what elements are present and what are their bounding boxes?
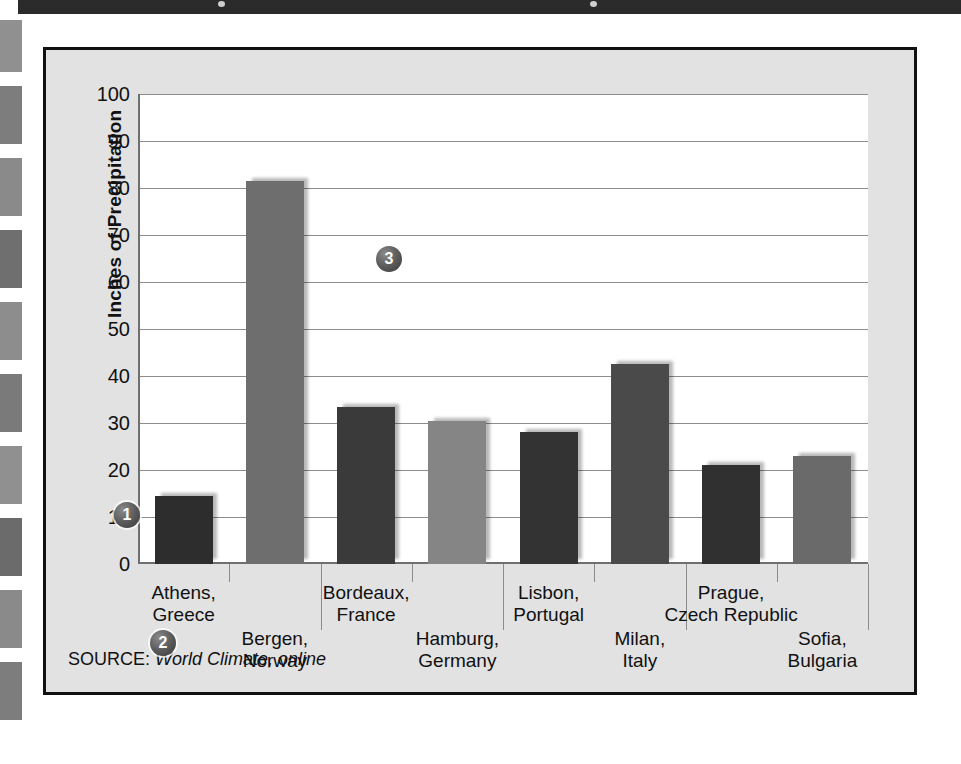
x-label-line2: Bulgaria	[788, 650, 858, 672]
x-label-line1: Milan,	[615, 628, 666, 650]
page-edge-band	[0, 518, 22, 576]
x-label-line1: Athens,	[151, 582, 215, 604]
page-edge-band	[0, 590, 22, 648]
gridline	[140, 94, 868, 95]
page-edge-band	[0, 302, 22, 360]
gridline	[140, 517, 868, 518]
plot-area	[138, 94, 868, 564]
gridline	[140, 470, 868, 471]
x-tick-mark	[412, 564, 413, 582]
gridline	[140, 329, 868, 330]
y-tick-label: 100	[97, 83, 130, 106]
y-tick-label: 30	[108, 412, 130, 435]
x-label-sofia: Sofia,Bulgaria	[788, 628, 858, 672]
y-tick-label: 20	[108, 459, 130, 482]
x-label-hamburg: Hamburg,Germany	[416, 628, 499, 672]
page-edge-band	[0, 662, 22, 720]
y-tick-label: 70	[108, 224, 130, 247]
source-label: SOURCE:	[68, 649, 150, 669]
source-note: SOURCE: World Climate, online	[68, 649, 326, 670]
page-root: Inches of Precipitation 1009080706050403…	[0, 0, 961, 764]
gridline	[140, 282, 868, 283]
y-tick-label: 0	[119, 553, 130, 576]
x-tick-mark	[868, 564, 869, 630]
gridline	[140, 141, 868, 142]
x-label-milan: Milan,Italy	[615, 628, 666, 672]
source-value: World Climate, online	[155, 649, 326, 669]
x-label-line2: Italy	[615, 650, 666, 672]
x-tick-mark	[321, 564, 322, 630]
figure-panel: Inches of Precipitation 1009080706050403…	[43, 47, 917, 695]
badge-1: 1	[114, 502, 140, 528]
x-label-prague: Prague,Czech Republic	[665, 582, 798, 626]
x-label-line1: Lisbon,	[513, 582, 584, 604]
page-edge-band	[0, 446, 22, 504]
x-tick-mark	[594, 564, 595, 582]
page-edge-band	[0, 230, 22, 288]
gridline	[140, 235, 868, 236]
x-label-bordeaux: Bordeaux,France	[323, 582, 410, 626]
top-banner	[18, 0, 961, 14]
y-tick-label: 60	[108, 271, 130, 294]
page-edge-band	[0, 20, 22, 72]
x-label-line1: Prague,	[665, 582, 798, 604]
x-label-athens: Athens,Greece	[151, 582, 215, 626]
gridline	[140, 188, 868, 189]
y-tick-label: 40	[108, 365, 130, 388]
gridline	[140, 376, 868, 377]
x-label-line2: Germany	[416, 650, 499, 672]
y-tick-label: 90	[108, 130, 130, 153]
plot-wrapper: 1009080706050403020100 Athens,GreeceBerg…	[138, 94, 868, 564]
x-label-line2: Greece	[151, 604, 215, 626]
x-label-line1: Sofia,	[788, 628, 858, 650]
y-tick-label: 80	[108, 177, 130, 200]
gridline	[140, 423, 868, 424]
badge-3: 3	[376, 246, 402, 272]
x-tick-mark	[229, 564, 230, 582]
page-edge-band	[0, 374, 22, 432]
page-edge-strip	[0, 0, 22, 764]
x-tick-mark	[503, 564, 504, 630]
y-tick-label: 50	[108, 318, 130, 341]
x-label-line2: Portugal	[513, 604, 584, 626]
x-label-line2: France	[323, 604, 410, 626]
x-label-line1: Hamburg,	[416, 628, 499, 650]
x-label-line1: Bergen,	[242, 628, 309, 650]
x-label-line2: Czech Republic	[665, 604, 798, 626]
banner-dot-right	[590, 1, 597, 7]
x-tick-mark	[777, 564, 778, 582]
badge-2: 2	[150, 630, 176, 656]
x-label-line1: Bordeaux,	[323, 582, 410, 604]
page-edge-band	[0, 86, 22, 144]
page-edge-band	[0, 158, 22, 216]
x-label-lisbon: Lisbon,Portugal	[513, 582, 584, 626]
banner-dot-left	[218, 1, 225, 7]
